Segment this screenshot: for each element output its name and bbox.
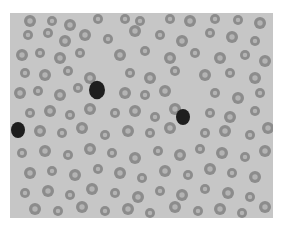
red-blood-cell (129, 152, 141, 164)
red-blood-cell (150, 112, 160, 122)
blood-smear-micrograph (10, 13, 273, 218)
red-blood-cell (65, 110, 75, 120)
red-blood-cell (199, 69, 211, 81)
red-blood-cell (34, 125, 46, 137)
red-blood-cell (224, 111, 236, 123)
red-blood-cell (16, 49, 28, 61)
red-blood-cell (219, 125, 231, 137)
red-blood-cell (195, 144, 205, 154)
red-blood-cell (93, 164, 103, 174)
red-blood-cell (169, 201, 181, 213)
red-blood-cell (140, 46, 150, 56)
white-blood-cell (11, 122, 25, 138)
red-blood-cell (24, 167, 36, 179)
red-blood-cell (237, 208, 247, 218)
red-blood-cell (44, 105, 56, 117)
red-blood-cell (170, 66, 180, 76)
red-blood-cell (120, 14, 130, 24)
red-blood-cell (245, 130, 255, 140)
red-blood-cell (100, 130, 110, 140)
red-blood-cell (75, 48, 85, 58)
red-blood-cell (79, 29, 91, 41)
red-blood-cell (86, 183, 98, 195)
red-blood-cell (119, 87, 131, 99)
red-blood-cell (54, 52, 66, 64)
red-blood-cell (125, 68, 135, 78)
red-blood-cell (76, 122, 88, 134)
red-blood-cell (76, 201, 88, 213)
red-blood-cell (39, 69, 51, 81)
red-blood-cell (39, 145, 51, 157)
red-blood-cell (164, 122, 176, 134)
red-blood-cell (184, 15, 196, 27)
red-blood-cell (64, 19, 76, 31)
red-blood-cell (110, 188, 120, 198)
red-blood-cell (165, 14, 175, 24)
red-blood-cell (107, 148, 117, 158)
red-blood-cell (210, 14, 220, 24)
red-blood-cell (205, 28, 215, 38)
red-blood-cell (47, 166, 57, 176)
red-blood-cell (24, 15, 36, 27)
red-blood-cell (140, 90, 150, 100)
red-blood-cell (205, 108, 215, 118)
red-blood-cell (176, 35, 188, 47)
red-blood-cell (42, 185, 54, 197)
red-blood-cell (250, 106, 260, 116)
red-blood-cell (214, 203, 226, 215)
red-blood-cell (129, 105, 141, 117)
red-blood-cell (153, 146, 163, 156)
red-blood-cell (29, 203, 41, 215)
red-blood-cell (73, 83, 83, 93)
red-blood-cell (110, 108, 120, 118)
red-blood-cell (249, 72, 261, 84)
red-blood-cell (216, 147, 228, 159)
red-blood-cell (155, 30, 165, 40)
red-blood-cell (103, 34, 113, 44)
red-blood-cell (240, 152, 250, 162)
red-blood-cell (262, 122, 273, 134)
red-blood-cell (53, 206, 63, 216)
red-blood-cell (122, 125, 134, 137)
red-blood-cell (245, 192, 255, 202)
red-blood-cell (122, 203, 134, 215)
red-blood-cell (54, 89, 66, 101)
red-blood-cell (174, 149, 186, 161)
red-blood-cell (232, 92, 244, 104)
red-blood-cell (222, 187, 234, 199)
red-blood-cell (183, 170, 193, 180)
red-blood-cell (47, 16, 57, 26)
red-blood-cell (190, 48, 200, 58)
red-blood-cell (59, 35, 71, 47)
red-blood-cell (200, 128, 210, 138)
red-blood-cell (84, 103, 96, 115)
red-blood-cell (145, 208, 155, 218)
red-blood-cell (259, 201, 271, 213)
red-blood-cell (159, 165, 171, 177)
red-blood-cell (114, 49, 126, 61)
red-blood-cell (255, 88, 265, 98)
red-blood-cell (84, 143, 96, 155)
red-blood-cell (155, 186, 165, 196)
red-blood-cell (35, 48, 45, 58)
red-blood-cell (63, 66, 73, 76)
red-blood-cell (254, 17, 266, 29)
red-blood-cell (240, 50, 250, 60)
red-blood-cell (145, 128, 155, 138)
red-blood-cell (193, 206, 203, 216)
red-blood-cell (144, 72, 156, 84)
red-blood-cell (227, 168, 237, 178)
red-blood-cell (114, 167, 126, 179)
red-blood-cell (225, 68, 235, 78)
red-blood-cell (200, 184, 210, 194)
red-blood-cell (17, 148, 27, 158)
red-blood-cell (135, 16, 145, 26)
red-blood-cell (14, 87, 26, 99)
red-blood-cell (57, 128, 67, 138)
red-blood-cell (93, 14, 103, 24)
red-blood-cell (132, 191, 144, 203)
red-blood-cell (20, 68, 30, 78)
red-blood-cell (20, 188, 30, 198)
red-blood-cell (159, 85, 171, 97)
cells-layer (10, 13, 273, 218)
